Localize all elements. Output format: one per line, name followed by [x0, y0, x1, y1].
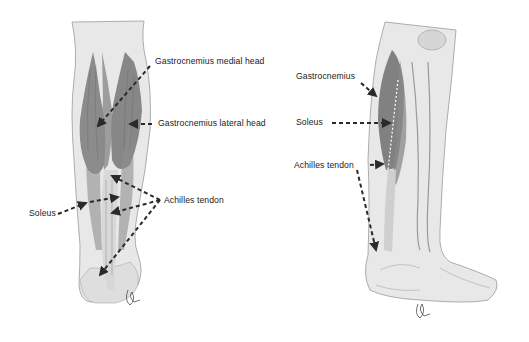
label-gastrocnemius-lateral-head: Gastrocnemius lateral head: [158, 118, 266, 128]
label-gastrocnemius-lateral: Gastrocnemius: [296, 71, 355, 81]
calf-illustration: [0, 0, 529, 342]
anatomy-figure: Gastrocnemius medial head Gastrocnemius …: [0, 0, 529, 342]
lateral-leg-drawing: [365, 22, 497, 318]
label-soleus-posterior: Soleus: [29, 208, 56, 218]
label-achilles-tendon-posterior: Achilles tendon: [164, 195, 224, 205]
label-soleus-lateral: Soleus: [296, 117, 323, 127]
label-gastrocnemius-medial-head: Gastrocnemius medial head: [155, 56, 265, 66]
label-achilles-tendon-lateral: Achilles tendon: [294, 160, 354, 170]
